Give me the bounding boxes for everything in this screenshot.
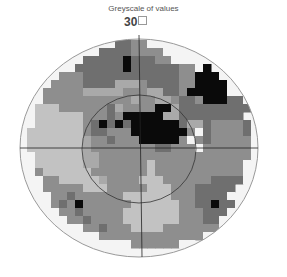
greyscale-cell bbox=[195, 224, 204, 233]
greyscale-cell bbox=[131, 112, 140, 121]
greyscale-cell bbox=[83, 88, 92, 97]
greyscale-cell bbox=[99, 224, 108, 233]
greyscale-cell bbox=[123, 136, 132, 145]
greyscale-cell bbox=[211, 136, 220, 145]
greyscale-cell bbox=[187, 112, 196, 121]
greyscale-cell bbox=[59, 112, 68, 121]
greyscale-cell bbox=[83, 216, 92, 225]
greyscale-cell bbox=[203, 160, 212, 169]
greyscale-cell bbox=[147, 168, 156, 177]
greyscale-cell bbox=[131, 152, 140, 161]
greyscale-cell bbox=[155, 80, 164, 89]
greyscale-cell bbox=[51, 88, 60, 97]
greyscale-cell bbox=[83, 136, 92, 145]
greyscale-cell bbox=[43, 120, 52, 129]
greyscale-cell bbox=[187, 104, 196, 113]
greyscale-cell bbox=[43, 168, 52, 177]
greyscale-cell bbox=[155, 56, 164, 65]
greyscale-cell bbox=[171, 120, 180, 129]
greyscale-cell bbox=[131, 216, 140, 225]
greyscale-cell bbox=[83, 224, 92, 233]
greyscale-cell bbox=[203, 184, 212, 193]
greyscale-cell bbox=[219, 80, 228, 89]
greyscale-cell bbox=[99, 80, 108, 89]
greyscale-cell bbox=[195, 112, 204, 121]
greyscale-cell bbox=[115, 120, 124, 129]
greyscale-cell bbox=[67, 152, 76, 161]
greyscale-cell bbox=[91, 152, 100, 161]
greyscale-cell bbox=[227, 80, 236, 89]
greyscale-cell bbox=[219, 136, 228, 145]
greyscale-cell bbox=[179, 208, 188, 217]
greyscale-cell bbox=[115, 192, 124, 201]
greyscale-cell bbox=[99, 96, 108, 105]
greyscale-cell bbox=[107, 136, 116, 145]
greyscale-cell bbox=[51, 160, 60, 169]
greyscale-cell bbox=[91, 160, 100, 169]
greyscale-cell bbox=[59, 152, 68, 161]
greyscale-cell bbox=[75, 216, 84, 225]
greyscale-cell bbox=[195, 128, 204, 137]
greyscale-cell bbox=[75, 88, 84, 97]
greyscale-cell bbox=[171, 152, 180, 161]
greyscale-cell bbox=[219, 216, 228, 225]
greyscale-cell bbox=[43, 104, 52, 113]
greyscale-cell bbox=[67, 136, 76, 145]
greyscale-cell bbox=[163, 208, 172, 217]
greyscale-cell bbox=[131, 128, 140, 137]
greyscale-cell bbox=[51, 176, 60, 185]
greyscale-cell bbox=[67, 216, 76, 225]
greyscale-cell bbox=[139, 232, 148, 241]
greyscale-cell bbox=[203, 208, 212, 217]
greyscale-cell bbox=[75, 208, 84, 217]
greyscale-cell bbox=[155, 192, 164, 201]
greyscale-cell bbox=[115, 88, 124, 97]
greyscale-cell bbox=[99, 176, 108, 185]
greyscale-cell bbox=[195, 136, 204, 145]
greyscale-cell bbox=[179, 56, 188, 65]
greyscale-cell bbox=[139, 64, 148, 73]
greyscale-cell bbox=[163, 176, 172, 185]
greyscale-cell bbox=[171, 64, 180, 73]
greyscale-cell bbox=[67, 96, 76, 105]
greyscale-cell bbox=[59, 200, 68, 209]
greyscale-cell bbox=[115, 152, 124, 161]
greyscale-cell bbox=[155, 224, 164, 233]
greyscale-cell bbox=[123, 40, 132, 49]
greyscale-cell bbox=[235, 104, 244, 113]
greyscale-cell bbox=[59, 72, 68, 81]
greyscale-cell bbox=[67, 160, 76, 169]
greyscale-cell bbox=[91, 48, 100, 57]
greyscale-cell bbox=[75, 176, 84, 185]
greyscale-cell bbox=[131, 200, 140, 209]
greyscale-cell bbox=[195, 208, 204, 217]
greyscale-cell bbox=[131, 96, 140, 105]
greyscale-cell bbox=[131, 192, 140, 201]
greyscale-cell bbox=[43, 112, 52, 121]
greyscale-cell bbox=[219, 168, 228, 177]
greyscale-cell bbox=[51, 136, 60, 145]
greyscale-cell bbox=[51, 152, 60, 161]
greyscale-cell bbox=[51, 208, 60, 217]
greyscale-cell bbox=[131, 136, 140, 145]
greyscale-cell bbox=[19, 128, 28, 137]
greyscale-cell bbox=[211, 200, 220, 209]
greyscale-cell bbox=[203, 80, 212, 89]
greyscale-cell bbox=[123, 176, 132, 185]
greyscale-cell bbox=[115, 208, 124, 217]
greyscale-cell bbox=[91, 80, 100, 89]
greyscale-cell bbox=[227, 192, 236, 201]
greyscale-cell bbox=[203, 72, 212, 81]
greyscale-cell bbox=[179, 232, 188, 241]
greyscale-cell bbox=[131, 64, 140, 73]
greyscale-cell bbox=[155, 48, 164, 57]
greyscale-cell bbox=[27, 136, 36, 145]
greyscale-cell bbox=[219, 112, 228, 121]
greyscale-cell bbox=[131, 160, 140, 169]
greyscale-cell bbox=[43, 96, 52, 105]
greyscale-cell bbox=[243, 120, 252, 129]
greyscale-cell bbox=[211, 184, 220, 193]
greyscale-cell bbox=[67, 224, 76, 233]
greyscale-cell bbox=[91, 56, 100, 65]
greyscale-cell bbox=[43, 192, 52, 201]
